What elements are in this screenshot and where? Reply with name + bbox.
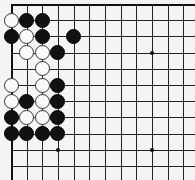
black-stone[interactable] — [19, 13, 34, 28]
grid-line-vertical — [183, 4, 184, 180]
white-stone[interactable] — [19, 110, 34, 125]
grid-line-vertical — [152, 4, 153, 180]
star-point — [150, 148, 154, 152]
black-stone[interactable] — [4, 110, 19, 125]
white-stone[interactable] — [35, 45, 50, 60]
white-stone[interactable] — [35, 61, 50, 76]
grid-line-vertical — [168, 4, 169, 180]
black-stone[interactable] — [19, 126, 34, 141]
black-stone[interactable] — [4, 29, 19, 44]
white-stone[interactable] — [4, 78, 19, 93]
black-stone[interactable] — [19, 94, 34, 109]
go-board[interactable] — [0, 0, 195, 180]
black-stone[interactable] — [35, 13, 50, 28]
black-stone[interactable] — [50, 45, 65, 60]
black-stone[interactable] — [50, 94, 65, 109]
white-stone[interactable] — [19, 45, 34, 60]
grid-line-vertical — [121, 4, 122, 180]
white-stone[interactable] — [4, 94, 19, 109]
grid-line-vertical — [136, 4, 137, 180]
star-point — [56, 148, 60, 152]
white-stone[interactable] — [35, 78, 50, 93]
black-stone[interactable] — [50, 78, 65, 93]
grid-line-vertical — [89, 4, 90, 180]
black-stone[interactable] — [4, 126, 19, 141]
white-stone[interactable] — [19, 29, 34, 44]
black-stone[interactable] — [35, 126, 50, 141]
grid-line-vertical — [105, 4, 106, 180]
star-point — [150, 51, 154, 55]
white-stone[interactable] — [4, 13, 19, 28]
black-stone[interactable] — [50, 110, 65, 125]
white-stone[interactable] — [35, 110, 50, 125]
black-stone[interactable] — [66, 29, 81, 44]
black-stone[interactable] — [35, 29, 50, 44]
black-stone[interactable] — [50, 126, 65, 141]
white-stone[interactable] — [35, 94, 50, 109]
